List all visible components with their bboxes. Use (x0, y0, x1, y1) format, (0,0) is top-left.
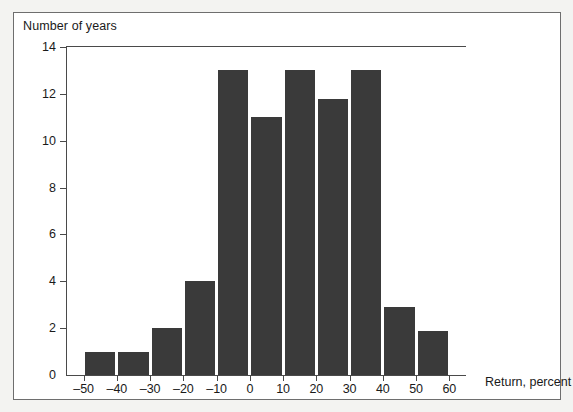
y-tick-mark (60, 141, 67, 142)
x-tick-mark (416, 375, 417, 381)
bar (285, 70, 315, 375)
x-tick-label: –40 (106, 382, 127, 396)
y-tick-mark (60, 328, 67, 329)
x-tick-mark (283, 375, 284, 381)
x-tick-mark (316, 375, 317, 381)
y-tick-mark (60, 47, 67, 48)
x-tick-mark (117, 375, 118, 381)
x-tick-label: 20 (309, 382, 323, 396)
x-tick-label: –10 (206, 382, 227, 396)
bar (218, 70, 248, 375)
y-axis-title: Number of years (23, 19, 117, 33)
x-tick-label: 40 (376, 382, 390, 396)
bar-series (67, 47, 466, 375)
y-tick-mark (60, 281, 67, 282)
bar (85, 352, 115, 375)
bar (351, 70, 381, 375)
x-tick-label: –50 (73, 382, 94, 396)
y-tick-label: 10 (42, 134, 56, 148)
x-tick-label: 60 (442, 382, 456, 396)
y-tick-label: 0 (49, 368, 56, 382)
plot-area: 02468101214 –50–40–30–20–100102030405060 (66, 46, 466, 376)
x-tick-mark (84, 375, 85, 381)
x-axis-title: Return, percent (485, 375, 571, 389)
x-tick-label: 10 (276, 382, 290, 396)
y-tick-label: 4 (49, 274, 56, 288)
y-tick-mark (60, 234, 67, 235)
y-tick-mark (60, 94, 67, 95)
bar (384, 307, 414, 375)
y-tick-mark (60, 188, 67, 189)
bar (418, 331, 448, 376)
x-tick-label: 50 (409, 382, 423, 396)
bar (152, 328, 182, 375)
x-tick-mark (383, 375, 384, 381)
x-tick-label: –20 (173, 382, 194, 396)
y-tick-label: 12 (42, 87, 56, 101)
y-tick-label: 2 (49, 321, 56, 335)
x-tick-mark (217, 375, 218, 381)
x-tick-mark (150, 375, 151, 381)
x-tick-mark (250, 375, 251, 381)
figure-panel: Number of years 02468101214 –50–40–30–20… (13, 12, 561, 400)
bar (118, 352, 148, 375)
y-tick-label: 8 (49, 181, 56, 195)
y-tick-label: 6 (49, 227, 56, 241)
bar (318, 99, 348, 375)
x-tick-label: 0 (246, 382, 253, 396)
y-tick-label: 14 (42, 40, 56, 54)
x-tick-mark (350, 375, 351, 381)
bar (251, 117, 281, 375)
x-tick-mark (183, 375, 184, 381)
x-tick-label: 30 (343, 382, 357, 396)
x-tick-mark (449, 375, 450, 381)
x-tick-label: –30 (140, 382, 161, 396)
bar (185, 281, 215, 375)
